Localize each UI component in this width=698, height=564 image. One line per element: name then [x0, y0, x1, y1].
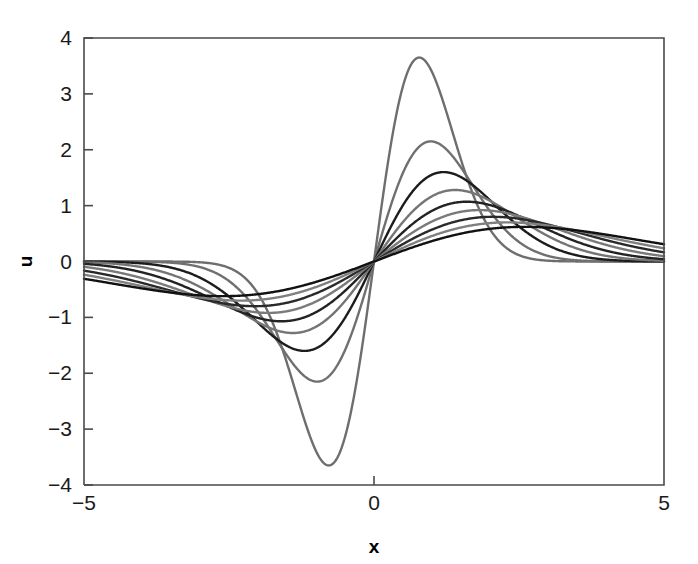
axis-labels-group: −4−3−2−101234−505xu	[15, 26, 670, 557]
y-axis-title: u	[15, 256, 36, 268]
x-axis-title: x	[369, 536, 380, 557]
y-tick-label: −1	[48, 305, 72, 328]
y-tick-label: −4	[48, 473, 72, 496]
data-curves-group	[84, 58, 664, 466]
y-tick-label: 1	[60, 194, 72, 217]
y-tick-label: 2	[60, 138, 72, 161]
figure-canvas: −4−3−2−101234−505xu	[0, 0, 698, 564]
y-tick-label: 4	[60, 26, 72, 49]
plot-area: −4−3−2−101234−505xu	[0, 0, 698, 564]
y-tick-label: 3	[60, 82, 72, 105]
x-tick-label: 5	[658, 491, 670, 514]
x-tick-label: −5	[72, 491, 96, 514]
y-tick-label: −3	[48, 417, 72, 440]
y-tick-label: −2	[48, 361, 72, 384]
x-tick-label: 0	[368, 491, 380, 514]
y-tick-label: 0	[60, 250, 72, 273]
